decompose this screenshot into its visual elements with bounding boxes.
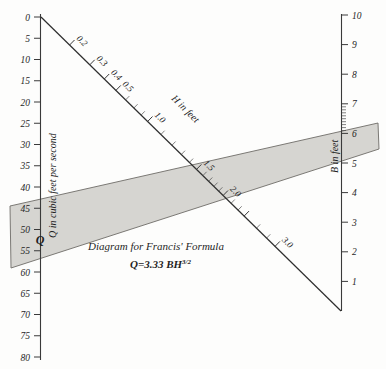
nomogram-figure: 0 5 10 15 20 25 30 35 40 45 50 55 60 65 … (0, 0, 386, 369)
q-tick-label: 30 (20, 140, 31, 150)
q-tick-label: 60 (21, 268, 31, 278)
b-tick-label: 9 (352, 40, 357, 50)
h-tick-label: 0.2 (75, 33, 90, 48)
q-axis-ticks (34, 17, 41, 357)
figure-caption: Diagram for Francis' Formula (87, 240, 224, 252)
b-axis-minor-ticks (342, 107, 347, 131)
b-axis-group: 10 9 8 7 6 5 4 3 2 1 B in feet (329, 11, 362, 312)
q-tick-label: 25 (21, 119, 31, 129)
h-tick-label: 0.4 (109, 67, 124, 82)
q-tick-label: 65 (21, 289, 31, 299)
b-tick-label: 5 (352, 159, 357, 169)
q-tick-label: 15 (21, 76, 31, 86)
b-tick-label: 10 (352, 11, 362, 21)
q-tick-label: 50 (21, 225, 31, 235)
b-tick-label: 6 (352, 129, 357, 139)
b-tick-label: 2 (352, 247, 357, 257)
nomogram-canvas: 0 5 10 15 20 25 30 35 40 45 50 55 60 65 … (0, 0, 386, 369)
h-tick-label: 1.0 (153, 110, 168, 125)
b-tick-label: 7 (352, 99, 358, 109)
h-axis-title: H in feet (169, 92, 202, 125)
q-tick-label: 70 (21, 310, 31, 320)
caption-group: Diagram for Francis' Formula Q=3.33 BH3/… (87, 240, 224, 270)
q-tick-label: 20 (21, 98, 31, 108)
formula-base: Q=3.33 BH (130, 258, 183, 270)
q-marker-label: Q (36, 233, 45, 247)
q-axis-tick-labels: 0 5 10 15 20 25 30 35 40 45 50 55 60 65 … (20, 13, 31, 363)
q-tick-label: 5 (25, 34, 30, 44)
b-tick-label: 1 (352, 277, 357, 287)
b-axis-title: B in feet (329, 139, 340, 173)
b-tick-label: 4 (352, 188, 357, 198)
figure-formula: Q=3.33 BH3/2 (130, 258, 192, 270)
q-tick-label: 45 (21, 204, 31, 214)
q-tick-label: 10 (21, 55, 31, 65)
formula-exponent: 3/2 (181, 258, 191, 266)
h-tick-label: 0.5 (121, 79, 136, 94)
h-tick-label: 0.3 (95, 53, 110, 68)
q-tick-label: 75 (21, 331, 31, 341)
b-tick-label: 3 (351, 218, 357, 228)
q-tick-label: 40 (21, 183, 31, 193)
q-axis-group: 0 5 10 15 20 25 30 35 40 45 50 55 60 65 … (20, 13, 59, 363)
q-tick-label: 35 (20, 161, 31, 171)
h-tick-label: 3.0 (279, 234, 295, 250)
b-tick-label: 8 (352, 70, 357, 80)
q-tick-label: 0 (25, 13, 30, 23)
q-axis-title: Q in cubic feet per second (47, 132, 58, 238)
q-tick-label: 55 (21, 246, 31, 256)
q-tick-label: 80 (21, 353, 31, 363)
